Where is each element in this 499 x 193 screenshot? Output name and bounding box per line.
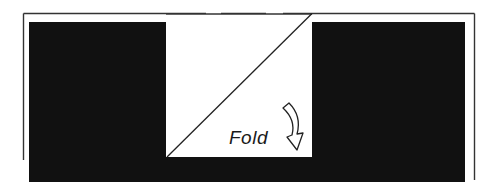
fold-label: Fold xyxy=(229,127,268,149)
bottom-black-band xyxy=(166,157,312,182)
fold-diagram: Fold xyxy=(0,0,499,193)
right-black-block xyxy=(312,22,465,182)
left-black-block xyxy=(29,22,166,182)
diagram-svg xyxy=(0,0,499,193)
